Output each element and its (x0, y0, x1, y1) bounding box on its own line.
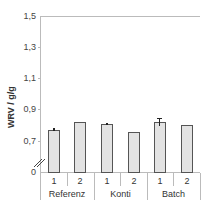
bar-batch-1 (154, 122, 166, 173)
group-label: Referenz (40, 189, 94, 199)
x-tick: 2 (70, 176, 90, 186)
y-tick: 1,5 (18, 11, 36, 21)
bar-referenz-1 (48, 130, 60, 173)
x-tick: 1 (97, 176, 117, 186)
x-tick: 1 (150, 176, 170, 186)
bar-referenz-2 (74, 122, 86, 173)
tick-mark (38, 141, 41, 142)
separator (200, 173, 201, 200)
tick-mark (38, 47, 41, 48)
separator (67, 173, 68, 186)
group-label: Batch (147, 189, 200, 199)
y-tick: 0,7 (18, 136, 36, 146)
x-tick: 2 (124, 176, 144, 186)
separator (120, 173, 121, 186)
y-axis (40, 16, 41, 173)
x-tick: 2 (177, 176, 197, 186)
y-tick: 0 (18, 167, 36, 177)
y-tick: 1,3 (18, 42, 36, 52)
error-bar (106, 123, 108, 125)
group-label: Konti (94, 189, 147, 199)
bar-konti-2 (128, 132, 140, 173)
y-axis-label: WRV / g/g (6, 86, 16, 128)
tick-mark (38, 109, 41, 110)
y-tick: 0,9 (18, 104, 36, 114)
bar-konti-1 (101, 124, 113, 173)
axis-break-icon (33, 156, 47, 168)
y-tick: 1,1 (18, 73, 36, 83)
separator (173, 173, 174, 186)
tick-mark (38, 78, 41, 79)
error-cap (157, 118, 162, 119)
x-tick: 1 (44, 176, 64, 186)
error-bar (159, 118, 160, 126)
error-bar (53, 128, 55, 131)
plot-top-border (40, 16, 200, 17)
bar-batch-2 (181, 125, 193, 173)
